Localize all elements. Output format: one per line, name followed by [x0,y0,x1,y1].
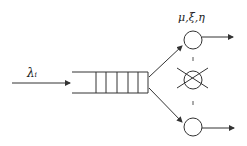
queue-diagram: λᵢ μ,ξ,η [0,0,247,146]
route-arrow-bottom [149,88,182,122]
server-failed-icon [177,68,208,89]
queue-buffer [72,72,148,93]
server-params-label: μ,ξ,η [178,11,205,24]
route-arrow-top [149,46,182,77]
arrival-rate-label: λᵢ [26,66,38,80]
server-top-icon [184,31,202,49]
server-bottom-icon [184,118,202,136]
